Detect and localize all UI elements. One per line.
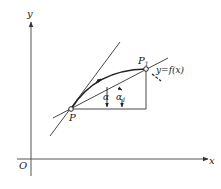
alpha-label: α [103,92,109,102]
alpha1-label: α1 [116,92,126,103]
point-p1-label: P1 [137,55,149,67]
x-axis: x [17,155,215,166]
point-p [69,107,74,112]
y-axis-label: y [26,8,33,19]
derivative-diagram: y x O α α1 P P1 y=f(x) [0,0,221,189]
point-p1 [144,67,149,72]
point-p-label: P [68,112,76,123]
y-axis: y [26,8,33,176]
curve-label: y=f(x) [155,65,185,75]
origin-label: O [19,160,27,171]
x-axis-label: x [209,155,215,166]
curve-label-leader [152,74,161,81]
